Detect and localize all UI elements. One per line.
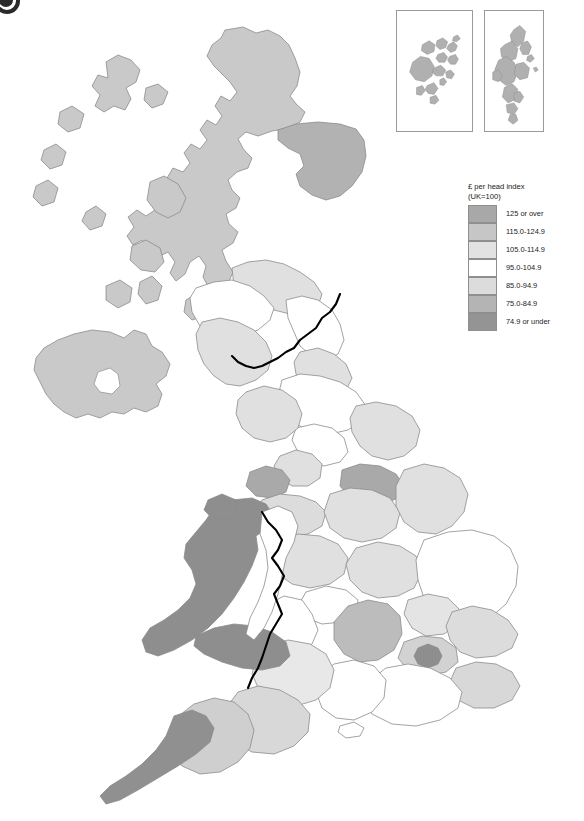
region-lincolnshire[interactable] — [396, 464, 468, 534]
legend-label: 74.9 or under — [497, 313, 550, 331]
inset-shetland-islands — [484, 10, 544, 132]
region-north-eastern-scotland[interactable] — [278, 122, 366, 200]
legend-row[interactable]: 75.0-84.9 — [468, 295, 580, 313]
region-island-jura[interactable] — [138, 276, 162, 304]
legend-label: 125 or over — [497, 205, 543, 223]
inset-orkney-islands — [396, 10, 473, 132]
legend-row[interactable]: 105.0-114.9 — [468, 241, 580, 259]
legend-row[interactable]: 95.0-104.9 — [468, 259, 580, 277]
map-legend: £ per head index (UK=100) 125 or over115… — [468, 182, 580, 331]
legend-label: 85.0-94.9 — [497, 277, 537, 295]
legend-rows: 125 or over115.0-124.9105.0-114.995.0-10… — [468, 205, 580, 331]
legend-title: £ per head index (UK=100) — [468, 182, 580, 201]
legend-swatch — [468, 313, 497, 331]
legend-label: 75.0-84.9 — [497, 295, 537, 313]
legend-swatch — [468, 259, 497, 277]
region-island-islay[interactable] — [106, 280, 132, 308]
map-figure: £ per head index (UK=100) 125 or over115… — [0, 0, 584, 821]
legend-row[interactable]: 115.0-124.9 — [468, 223, 580, 241]
legend-swatch — [468, 277, 497, 295]
region-east-riding-north-lincolnshire[interactable] — [350, 402, 420, 460]
legend-label: 105.0-114.9 — [497, 241, 545, 259]
legend-row[interactable]: 85.0-94.9 — [468, 277, 580, 295]
region-island-lewis-south[interactable] — [144, 84, 168, 108]
region-island-small-1[interactable] — [58, 106, 84, 132]
orkney-islands-shape — [397, 11, 472, 131]
legend-row[interactable]: 125 or over — [468, 205, 580, 223]
region-western-isles[interactable] — [92, 55, 140, 112]
region-isle-of-wight[interactable] — [338, 722, 364, 738]
legend-swatch — [468, 205, 497, 223]
legend-swatch — [468, 223, 497, 241]
shetland-islands-shape — [485, 11, 543, 131]
region-island-small-4[interactable] — [82, 206, 106, 230]
region-inner-london[interactable] — [414, 644, 442, 668]
legend-swatch — [468, 241, 497, 259]
region-leics-rutland-northants[interactable] — [346, 542, 422, 598]
legend-label: 95.0-104.9 — [497, 259, 541, 277]
legend-label: 115.0-124.9 — [497, 223, 545, 241]
region-island-small-2[interactable] — [41, 144, 66, 169]
region-island-small-3[interactable] — [33, 180, 58, 206]
region-essex[interactable] — [446, 606, 518, 658]
legend-swatch — [468, 295, 497, 313]
legend-row[interactable]: 74.9 or under — [468, 313, 580, 331]
